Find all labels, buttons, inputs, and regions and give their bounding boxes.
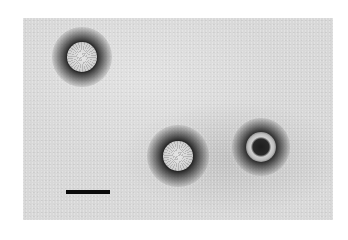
virus-particle-bottom-right bbox=[246, 132, 276, 162]
virus-particle-bottom-center bbox=[163, 141, 193, 171]
virus-particle-top-left bbox=[67, 42, 97, 72]
scale-bar bbox=[66, 190, 110, 194]
